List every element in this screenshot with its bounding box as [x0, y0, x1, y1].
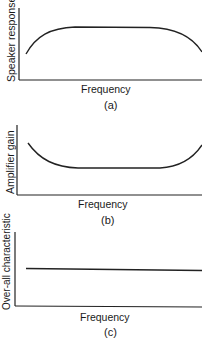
overall-characteristic-plot [0, 0, 202, 339]
panel-c: Over-all characteristic Frequency (c) [0, 0, 202, 339]
overall-characteristic-line [26, 269, 202, 271]
y-axis-label: Over-all characteristic [1, 213, 12, 310]
x-axis [15, 306, 202, 307]
panel-caption: (c) [104, 326, 117, 338]
x-axis-label: Frequency [80, 311, 130, 323]
